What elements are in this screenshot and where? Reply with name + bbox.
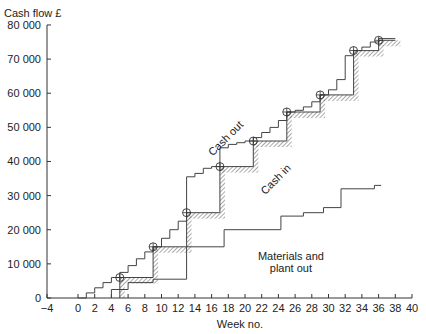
x-tick-label: 36 [372,302,384,314]
circled-cross-marker [116,274,124,282]
hatch-segment [153,247,191,253]
x-tick-label: 34 [356,302,368,314]
circled-cross-marker [216,163,224,171]
x-tick-label: 24 [272,302,284,314]
x-tick-label: 28 [306,302,318,314]
x-tick-label: 16 [205,302,217,314]
x-tick-label: 18 [222,302,234,314]
y-tick-label: 80 000 [7,19,41,31]
circled-cross-marker [149,243,157,251]
y-tick-label: 50 000 [7,121,41,133]
circled-cross-marker [350,47,358,55]
circled-cross-marker [283,108,291,116]
x-tick-label: 6 [125,302,131,314]
y-tick-label: 30 000 [7,190,41,202]
circled-cross-marker [316,91,324,99]
x-tick-label: 22 [256,302,268,314]
x-tick-label: 10 [155,302,167,314]
x-tick-label: −4 [41,302,54,314]
x-tick-label: 32 [339,302,351,314]
x-tick-label: 30 [322,302,334,314]
x-tick-label: 14 [189,302,201,314]
y-tick-label: 10 000 [7,258,41,270]
x-tick-label: 38 [389,302,401,314]
x-tick-label: 12 [172,302,184,314]
hatch-segment [187,213,225,219]
x-tick-label: 4 [108,302,114,314]
x-tick-label: 8 [142,302,148,314]
x-tick-label: 40 [406,302,418,314]
hatch-segment [220,167,258,173]
y-axis-title: Cash flow £ [4,7,61,19]
y-tick-label: 60 000 [7,87,41,99]
annotation-label: plant out [270,262,312,274]
y-tick-label: 20 000 [7,224,41,236]
hatch-segment [220,167,225,213]
y-tick-label: 70 000 [7,53,41,65]
intersection-markers [116,36,383,281]
x-axis-title: Week no. [217,318,263,330]
annotation-label: Materials and [258,250,324,262]
x-tick-label: 0 [75,302,81,314]
cash-flow-chart: Cash flow £ Week no. −402468101214161820… [0,0,426,334]
circled-cross-marker [249,137,257,145]
y-tick-label: 40 000 [7,155,41,167]
y-tick-label: 0 [35,292,41,304]
x-tick-label: 20 [239,302,251,314]
annotation-label: Cash in [258,162,293,197]
hatch-segment [354,51,384,57]
circled-cross-marker [183,209,191,217]
circled-cross-marker [375,36,383,44]
hatch-segment [253,141,291,147]
x-tick-label: 2 [92,302,98,314]
hatch-segment [320,95,358,101]
annotation-label: Cash out [206,118,246,158]
hatch-segment [354,51,359,95]
hatch-segment [287,112,325,118]
x-tick-label: 26 [289,302,301,314]
